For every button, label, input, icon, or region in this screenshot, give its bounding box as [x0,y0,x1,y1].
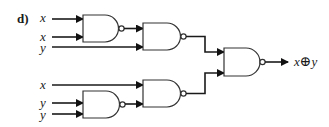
nand-gate-4 [143,80,186,107]
nand-gate-3 [83,91,125,118]
nand-gate-1 [83,15,124,42]
nand-gate-2 [143,23,186,50]
output-label: x⊕y [293,54,318,69]
wire-n2-out [186,37,224,53]
input-label-y1: y [38,40,46,55]
part-label: d) [17,11,29,26]
wire-n4-out [186,73,224,94]
nand-xor-circuit: d) x x y x y y x⊕y [0,0,329,127]
input-label-x3: x [39,77,46,92]
input-label-y3: y [38,107,46,122]
nand-gate-5 [224,48,265,76]
input-label-x1: x [39,10,46,25]
